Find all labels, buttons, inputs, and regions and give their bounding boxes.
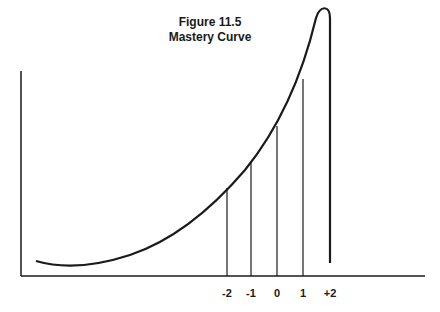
mastery-curve-chart: -2-101+2 [0,0,440,312]
x-tick-label: 1 [300,287,306,299]
x-tick-label: -1 [246,287,256,299]
x-tick-label: -2 [222,287,232,299]
x-tick-label: +2 [324,287,337,299]
mastery-curve [36,8,330,265]
x-tick-label: 0 [274,287,280,299]
